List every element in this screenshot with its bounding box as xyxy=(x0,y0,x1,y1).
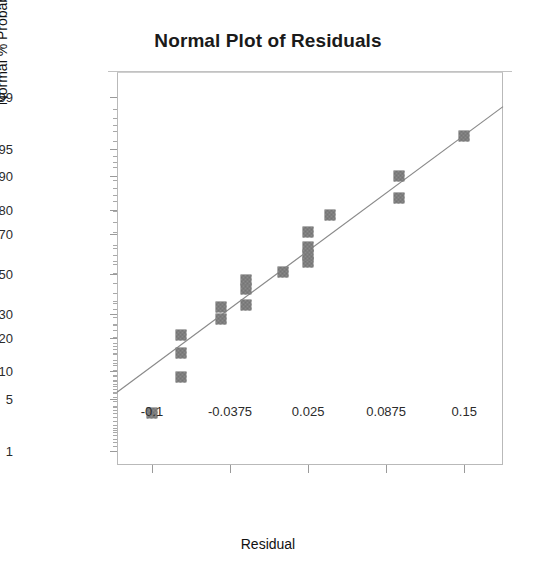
y-axis-minor-tick xyxy=(113,360,117,361)
data-point xyxy=(175,371,186,382)
y-axis-minor-tick xyxy=(113,211,117,212)
y-axis-minor-tick xyxy=(113,346,117,347)
data-point xyxy=(216,302,227,313)
y-axis-tick-label: 80 xyxy=(0,202,13,217)
y-axis-tick-label: 90 xyxy=(0,169,13,184)
y-axis-minor-tick xyxy=(113,446,117,447)
y-axis-minor-tick xyxy=(113,365,117,366)
y-axis-minor-tick xyxy=(113,301,117,302)
y-axis-minor-tick xyxy=(113,389,117,390)
y-axis-minor-tick xyxy=(113,384,117,385)
y-axis-tick xyxy=(110,176,117,177)
data-point xyxy=(175,347,186,358)
y-axis-tick xyxy=(110,399,117,400)
y-axis-minor-tick xyxy=(113,330,117,331)
y-axis-minor-tick xyxy=(113,255,117,256)
y-axis-tick xyxy=(110,149,117,150)
y-axis-minor-tick xyxy=(113,386,117,387)
x-axis-tick xyxy=(386,465,387,473)
y-axis-minor-tick xyxy=(113,125,117,126)
y-axis-tick xyxy=(110,371,117,372)
data-point xyxy=(324,210,335,221)
x-axis-tick-label: -0.0375 xyxy=(185,404,275,419)
x-axis-tick-label: 0.025 xyxy=(263,404,353,419)
y-axis-title: Normal % Probability xyxy=(0,0,10,150)
y-axis-minor-tick xyxy=(113,381,117,382)
y-axis-minor-tick xyxy=(113,248,117,249)
y-axis-minor-tick xyxy=(113,421,117,422)
y-axis-minor-tick xyxy=(113,432,117,433)
data-point xyxy=(175,330,186,341)
y-axis-tick-label: 30 xyxy=(0,306,13,321)
y-axis-tick xyxy=(110,274,117,275)
x-axis-tick xyxy=(308,465,309,473)
y-axis-minor-tick xyxy=(113,303,117,304)
data-point xyxy=(241,274,252,285)
y-axis-minor-tick xyxy=(113,273,117,274)
x-axis-tick xyxy=(464,465,465,473)
y-axis-minor-tick xyxy=(113,141,117,142)
y-axis-tick xyxy=(110,97,117,98)
y-axis-minor-tick xyxy=(113,337,117,338)
y-axis-minor-tick xyxy=(113,293,117,294)
y-axis-minor-tick xyxy=(113,245,117,246)
y-axis-tick-label: 1 xyxy=(0,443,13,458)
y-axis-tick-label: 10 xyxy=(0,364,13,379)
y-axis-minor-tick xyxy=(113,309,117,310)
data-point xyxy=(277,266,288,277)
y-axis-minor-tick xyxy=(113,343,117,344)
data-point xyxy=(303,226,314,237)
y-axis-minor-tick xyxy=(113,325,117,326)
y-axis-minor-tick xyxy=(113,442,117,443)
y-axis-minor-tick xyxy=(113,167,117,168)
y-axis-tick-label: 50 xyxy=(0,266,13,281)
x-axis-tick-label: 0.0875 xyxy=(341,404,431,419)
y-axis-minor-tick xyxy=(113,118,117,119)
y-axis-minor-tick xyxy=(113,201,117,202)
y-axis-minor-tick xyxy=(113,261,117,262)
y-axis-minor-tick xyxy=(113,425,117,426)
data-point xyxy=(394,193,405,204)
y-axis-minor-tick xyxy=(113,109,117,110)
x-axis-tick-label: 0.15 xyxy=(419,404,509,419)
x-axis-tick xyxy=(152,465,153,473)
y-axis-minor-tick xyxy=(113,180,117,181)
data-point xyxy=(241,284,252,295)
y-axis-minor-tick xyxy=(113,232,117,233)
y-axis-minor-tick xyxy=(113,264,117,265)
chart-title: Normal Plot of Residuals xyxy=(0,30,536,52)
y-axis-minor-tick xyxy=(113,349,117,350)
y-axis-minor-tick xyxy=(113,131,117,132)
data-point xyxy=(394,171,405,182)
y-axis-minor-tick xyxy=(113,393,117,394)
y-axis-minor-tick xyxy=(113,435,117,436)
data-point xyxy=(241,300,252,311)
x-axis-title: Residual xyxy=(0,536,536,552)
y-axis-tick xyxy=(110,234,117,235)
y-axis-minor-tick xyxy=(113,156,117,157)
y-axis-tick xyxy=(110,338,117,339)
data-point xyxy=(216,314,227,325)
y-axis-minor-tick xyxy=(113,370,117,371)
chart-canvas: Normal Plot of Residuals 151020305070809… xyxy=(0,0,536,579)
y-axis-minor-tick xyxy=(113,222,117,223)
y-axis-minor-tick xyxy=(113,392,117,393)
y-axis-tick-label: 70 xyxy=(0,226,13,241)
y-axis-minor-tick xyxy=(113,283,117,284)
y-axis-minor-tick xyxy=(113,354,117,355)
y-axis-minor-tick xyxy=(113,188,117,189)
y-axis-tick-label: 20 xyxy=(0,330,13,345)
y-axis-minor-tick xyxy=(113,401,117,402)
y-axis-minor-tick xyxy=(113,162,117,163)
data-point xyxy=(303,241,314,252)
x-axis-tick xyxy=(230,465,231,473)
x-axis-tick-label: -0.1 xyxy=(107,404,197,419)
y-axis-minor-tick xyxy=(113,363,117,364)
y-axis-minor-tick xyxy=(113,397,117,398)
y-axis-minor-tick xyxy=(113,439,117,440)
y-axis-minor-tick xyxy=(113,195,117,196)
y-axis-tick-label: 5 xyxy=(0,391,13,406)
data-point xyxy=(459,130,470,141)
y-axis-minor-tick xyxy=(113,430,117,431)
y-axis-tick xyxy=(110,314,117,315)
